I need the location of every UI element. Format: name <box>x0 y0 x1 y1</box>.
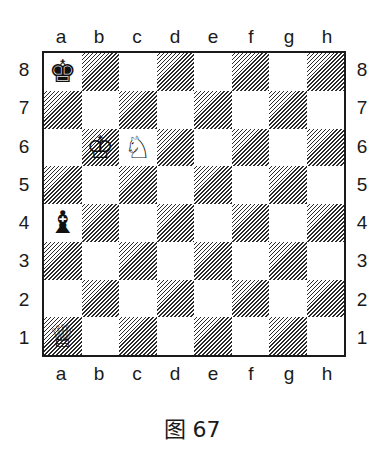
rank-labels-right: 8 7 6 5 4 3 2 1 <box>347 51 377 357</box>
square-f1 <box>232 317 270 355</box>
square-b8 <box>82 53 120 91</box>
rank-label-2: 2 <box>9 281 39 319</box>
file-label-g: g <box>270 364 308 384</box>
square-c7 <box>119 91 157 129</box>
rank-label-7: 7 <box>347 89 377 127</box>
square-d3 <box>157 242 195 280</box>
black-bishop-icon: ♝ <box>46 206 80 240</box>
rank-label-8: 8 <box>347 51 377 89</box>
square-f4 <box>232 204 270 242</box>
square-h7 <box>307 91 345 129</box>
file-label-h: h <box>308 27 346 47</box>
file-label-e: e <box>194 27 232 47</box>
file-label-e: e <box>194 364 232 384</box>
square-a3 <box>44 242 82 280</box>
square-f7 <box>232 91 270 129</box>
square-e8 <box>194 53 232 91</box>
rank-label-6: 6 <box>347 128 377 166</box>
file-label-b: b <box>80 364 118 384</box>
square-g4 <box>269 204 307 242</box>
file-labels-top: a b c d e f g h <box>42 27 346 47</box>
rank-label-7: 7 <box>9 89 39 127</box>
square-b7 <box>82 91 120 129</box>
square-b3 <box>82 242 120 280</box>
rank-label-3: 3 <box>9 242 39 280</box>
file-label-d: d <box>156 364 194 384</box>
square-c8 <box>119 53 157 91</box>
rank-label-5: 5 <box>347 166 377 204</box>
square-g6 <box>269 129 307 167</box>
square-h3 <box>307 242 345 280</box>
square-h4 <box>307 204 345 242</box>
file-label-h: h <box>308 364 346 384</box>
square-f8 <box>232 53 270 91</box>
file-label-g: g <box>270 27 308 47</box>
square-f6 <box>232 129 270 167</box>
rank-label-3: 3 <box>347 242 377 280</box>
square-f2 <box>232 280 270 318</box>
rank-label-8: 8 <box>9 51 39 89</box>
white-knight-icon: ♘ <box>121 130 155 164</box>
rank-label-1: 1 <box>9 319 39 357</box>
square-a8: ♚ <box>44 53 82 91</box>
square-a4: ♝ <box>44 204 82 242</box>
square-e3 <box>194 242 232 280</box>
square-b4 <box>82 204 120 242</box>
file-label-c: c <box>118 27 156 47</box>
square-b1 <box>82 317 120 355</box>
square-d6 <box>157 129 195 167</box>
square-b5 <box>82 166 120 204</box>
square-c3 <box>119 242 157 280</box>
square-d2 <box>157 280 195 318</box>
file-label-a: a <box>42 27 80 47</box>
rank-label-4: 4 <box>9 204 39 242</box>
square-g1 <box>269 317 307 355</box>
rank-label-2: 2 <box>347 281 377 319</box>
file-label-f: f <box>232 27 270 47</box>
white-queen-icon: ♕ <box>46 319 80 353</box>
rank-label-6: 6 <box>9 128 39 166</box>
file-label-f: f <box>232 364 270 384</box>
square-h2 <box>307 280 345 318</box>
file-label-b: b <box>80 27 118 47</box>
square-c1 <box>119 317 157 355</box>
square-b6: ♔ <box>82 129 120 167</box>
square-a2 <box>44 280 82 318</box>
chess-board: ♚♔♘♝♕ <box>42 51 346 357</box>
square-h8 <box>307 53 345 91</box>
black-king-icon: ♚ <box>46 55 80 89</box>
square-a7 <box>44 91 82 129</box>
square-f5 <box>232 166 270 204</box>
square-e5 <box>194 166 232 204</box>
square-c6: ♘ <box>119 129 157 167</box>
square-e1 <box>194 317 232 355</box>
square-g5 <box>269 166 307 204</box>
square-c5 <box>119 166 157 204</box>
square-h5 <box>307 166 345 204</box>
square-b2 <box>82 280 120 318</box>
file-labels-bottom: a b c d e f g h <box>42 364 346 384</box>
square-g8 <box>269 53 307 91</box>
rank-labels-left: 8 7 6 5 4 3 2 1 <box>9 51 39 357</box>
square-h6 <box>307 129 345 167</box>
figure-caption: 图 67 <box>0 411 384 443</box>
square-c4 <box>119 204 157 242</box>
square-d7 <box>157 91 195 129</box>
square-e2 <box>194 280 232 318</box>
square-e6 <box>194 129 232 167</box>
white-king-icon: ♔ <box>83 130 117 164</box>
square-g3 <box>269 242 307 280</box>
square-h1 <box>307 317 345 355</box>
rank-label-4: 4 <box>347 204 377 242</box>
square-c2 <box>119 280 157 318</box>
square-d1 <box>157 317 195 355</box>
square-d5 <box>157 166 195 204</box>
rank-label-1: 1 <box>347 319 377 357</box>
square-d4 <box>157 204 195 242</box>
file-label-d: d <box>156 27 194 47</box>
square-g7 <box>269 91 307 129</box>
file-label-a: a <box>42 364 80 384</box>
square-e4 <box>194 204 232 242</box>
square-e7 <box>194 91 232 129</box>
square-f3 <box>232 242 270 280</box>
